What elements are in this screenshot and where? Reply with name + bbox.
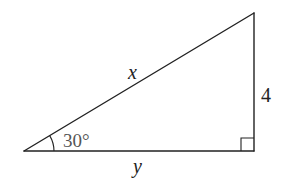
hypotenuse-line <box>24 13 254 151</box>
angle-label: 30° <box>63 130 90 151</box>
angle-arc <box>50 136 54 151</box>
right-triangle-diagram: x 4 y 30° <box>0 0 285 189</box>
hypotenuse-label: x <box>127 61 137 83</box>
right-angle-marker <box>241 138 254 151</box>
vertical-side-label: 4 <box>261 84 271 106</box>
base-side-label: y <box>131 155 142 178</box>
